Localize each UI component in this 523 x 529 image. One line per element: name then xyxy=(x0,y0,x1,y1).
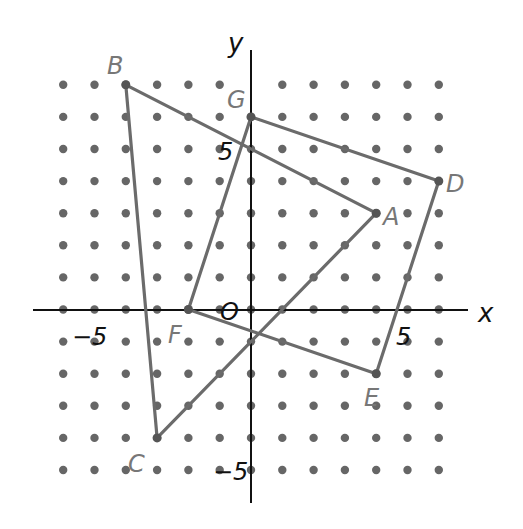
grid-dot xyxy=(341,370,349,378)
grid-dot xyxy=(90,177,98,185)
grid-dot xyxy=(278,434,286,442)
grid-dot xyxy=(372,145,380,153)
grid-dot xyxy=(184,177,192,185)
grid-dot xyxy=(122,145,130,153)
grid-dot xyxy=(435,209,443,217)
y-tick-neg5: −5 xyxy=(213,458,248,486)
grid-dot xyxy=(372,466,380,474)
grid-dot xyxy=(372,81,380,89)
grid-dot xyxy=(341,402,349,410)
grid-dot xyxy=(184,466,192,474)
grid-dot xyxy=(309,434,317,442)
x-tick-5: 5 xyxy=(396,323,411,351)
grid-dot xyxy=(90,209,98,217)
grid-dot xyxy=(278,241,286,249)
grid-dot xyxy=(341,177,349,185)
grid-dot xyxy=(59,466,67,474)
grid-dot xyxy=(90,434,98,442)
x-axis-label: x xyxy=(477,298,494,328)
grid-dot xyxy=(59,81,67,89)
grid-dot xyxy=(90,402,98,410)
coordinate-grid-figure: y x O −5 5 5 −5 B G D A F E C xyxy=(0,0,523,529)
grid-dot xyxy=(153,466,161,474)
grid-dot xyxy=(435,81,443,89)
grid-dot xyxy=(153,337,161,345)
point-label-C: C xyxy=(128,450,145,478)
grid-dot xyxy=(309,145,317,153)
grid-dot xyxy=(435,145,443,153)
grid-dot xyxy=(216,177,224,185)
point-label-A: A xyxy=(381,203,399,231)
grid-dot xyxy=(153,113,161,121)
grid-dot xyxy=(90,370,98,378)
grid-dot xyxy=(278,273,286,281)
grid-dot xyxy=(278,81,286,89)
grid-dot xyxy=(403,81,411,89)
vertex-E xyxy=(372,369,381,378)
grid-dot xyxy=(59,434,67,442)
grid-dot xyxy=(309,466,317,474)
grid-dot xyxy=(341,337,349,345)
grid-dot xyxy=(59,177,67,185)
x-tick-neg5: −5 xyxy=(72,323,107,351)
grid-dot xyxy=(122,337,130,345)
grid-dot xyxy=(153,177,161,185)
grid-dot xyxy=(216,241,224,249)
origin-label: O xyxy=(220,298,239,326)
grid-dot xyxy=(278,402,286,410)
grid-dot xyxy=(184,370,192,378)
grid-dot xyxy=(309,81,317,89)
grid-dot xyxy=(153,145,161,153)
grid-dot xyxy=(216,113,224,121)
grid-dot xyxy=(122,177,130,185)
grid-dot xyxy=(403,177,411,185)
grid-dot xyxy=(278,370,286,378)
vertex-dots xyxy=(121,80,443,442)
grid-dot xyxy=(122,434,130,442)
grid-dot xyxy=(216,337,224,345)
grid-dot xyxy=(59,241,67,249)
vertex-D xyxy=(434,177,443,186)
point-label-D: D xyxy=(446,170,464,198)
grid-dot xyxy=(59,145,67,153)
grid-dot xyxy=(372,337,380,345)
grid-dot xyxy=(59,402,67,410)
grid-dot xyxy=(122,370,130,378)
grid-dot xyxy=(309,241,317,249)
grid-dot xyxy=(309,209,317,217)
grid-dot xyxy=(153,273,161,281)
grid-dot xyxy=(435,113,443,121)
grid-dot xyxy=(309,402,317,410)
grid-dot xyxy=(216,434,224,442)
grid-dot xyxy=(122,402,130,410)
grid-dot xyxy=(216,81,224,89)
grid-dot xyxy=(403,145,411,153)
grid-dot xyxy=(435,241,443,249)
polygons xyxy=(126,85,439,438)
grid-dot xyxy=(435,402,443,410)
grid-dot xyxy=(59,337,67,345)
grid-dot xyxy=(184,209,192,217)
point-label-B: B xyxy=(107,52,123,80)
grid-dot xyxy=(184,241,192,249)
grid-dot xyxy=(90,273,98,281)
grid-dot xyxy=(372,434,380,442)
grid-dot xyxy=(403,241,411,249)
vertex-A xyxy=(372,209,381,218)
point-label-G: G xyxy=(227,86,246,114)
grid-dot xyxy=(90,145,98,153)
grid-dot xyxy=(184,337,192,345)
grid-dot xyxy=(435,370,443,378)
grid-dot xyxy=(59,113,67,121)
vertex-B xyxy=(121,80,130,89)
grid-dot xyxy=(403,466,411,474)
grid-dot xyxy=(403,209,411,217)
grid-dot xyxy=(184,145,192,153)
vertex-F xyxy=(184,305,193,314)
grid-dot xyxy=(90,113,98,121)
grid-dot xyxy=(90,466,98,474)
point-label-E: E xyxy=(364,384,380,412)
grid-dot xyxy=(341,113,349,121)
grid-dot xyxy=(184,273,192,281)
grid-dot xyxy=(372,177,380,185)
